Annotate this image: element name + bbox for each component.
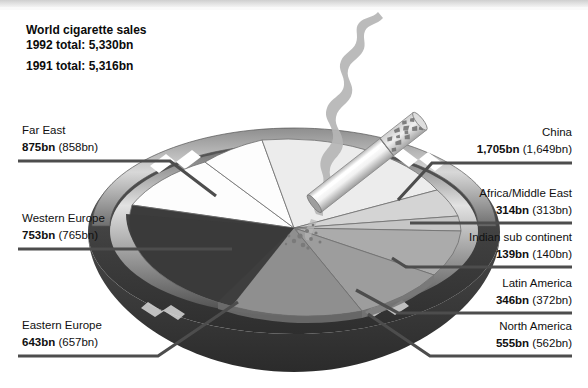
page-title: World cigarette sales	[26, 22, 147, 38]
callout-western-europe-prev: (765bn)	[58, 229, 98, 241]
callout-far-east-prev: (858bn)	[58, 141, 98, 153]
callout-africa-middle-east-prev: (313bn)	[532, 204, 572, 216]
callout-western-europe-name: Western Europe	[22, 211, 105, 226]
callout-africa-middle-east-name: Africa/Middle East	[479, 186, 572, 201]
callout-north-america-value: 555bn	[496, 337, 529, 349]
total-1992: 1992 total: 5,330bn	[26, 37, 133, 53]
chart-canvas: World cigarette sales 1992 total: 5,330b…	[0, 0, 588, 388]
callout-china-prev: (1,649bn)	[523, 143, 572, 155]
total-1991: 1991 total: 5,316bn	[26, 58, 133, 74]
callout-africa-middle-east-values: 314bn (313bn)	[496, 203, 572, 218]
callout-indian-sub-continent-values: 139bn (140bn)	[496, 247, 572, 262]
callout-far-east-value: 875bn	[22, 141, 55, 153]
callout-indian-sub-continent-prev: (140bn)	[532, 248, 572, 260]
callout-north-america-prev: (562bn)	[532, 337, 572, 349]
callout-north-america-name: North America	[499, 319, 572, 334]
callout-indian-sub-continent-name: Indian sub continent	[469, 230, 572, 245]
callout-western-europe-value: 753bn	[22, 229, 55, 241]
callout-china-name: China	[542, 125, 572, 140]
callout-far-east-name: Far East	[22, 123, 65, 138]
callout-eastern-europe-value: 643bn	[22, 336, 55, 348]
callout-latin-america-name: Latin America	[502, 276, 572, 291]
leader-far-east	[18, 161, 216, 196]
callout-latin-america-values: 346bn (372bn)	[496, 293, 572, 308]
callout-china-value: 1,705bn	[477, 143, 520, 155]
callout-eastern-europe-name: Eastern Europe	[22, 318, 102, 333]
callout-eastern-europe-values: 643bn (657bn)	[22, 335, 98, 350]
callout-north-america-values: 555bn (562bn)	[496, 336, 572, 351]
callout-far-east-values: 875bn (858bn)	[22, 140, 98, 155]
callout-china-values: 1,705bn (1,649bn)	[477, 142, 572, 157]
callout-western-europe-values: 753bn (765bn)	[22, 228, 98, 243]
callout-africa-middle-east-value: 314bn	[496, 204, 529, 216]
callout-indian-sub-continent-value: 139bn	[496, 248, 529, 260]
callout-latin-america-value: 346bn	[496, 294, 529, 306]
callout-latin-america-prev: (372bn)	[532, 294, 572, 306]
callout-eastern-europe-prev: (657bn)	[58, 336, 98, 348]
